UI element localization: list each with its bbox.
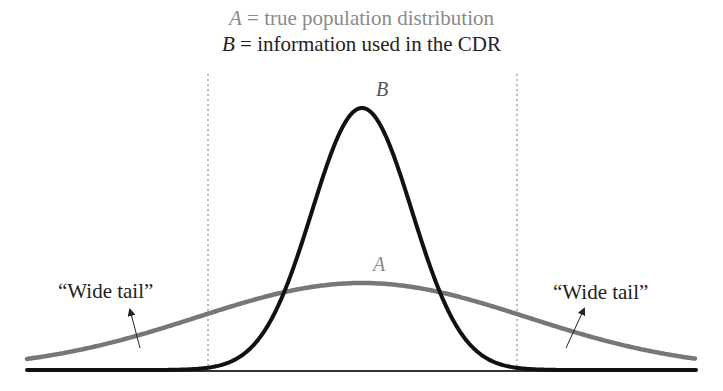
curve-b-label: B (376, 78, 388, 101)
legend-b-text: information used in the CDR (257, 32, 501, 56)
legend-b-separator: = (235, 32, 257, 56)
legend-b: B = information used in the CDR (0, 32, 723, 57)
diagram-canvas (0, 0, 723, 391)
curve-b (27, 108, 696, 370)
legend-a: A = true population distribution (0, 6, 723, 31)
right-tail-label: “Wide tail” (553, 280, 648, 305)
left-tail-arrow-icon (130, 310, 140, 348)
left-tail-label: “Wide tail” (58, 279, 153, 304)
legend-a-separator: = (242, 6, 264, 30)
legend-a-symbol: A (229, 6, 242, 30)
curve-a-label: A (373, 253, 385, 276)
legend-a-text: true population distribution (264, 6, 494, 30)
legend-b-symbol: B (222, 32, 235, 56)
